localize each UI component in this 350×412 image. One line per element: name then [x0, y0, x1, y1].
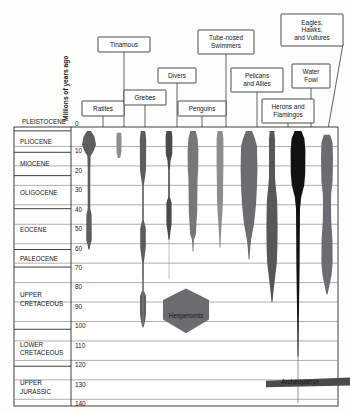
epoch-label: OLIGOCENE: [20, 189, 57, 196]
label-box-divers[interactable]: Divers: [158, 68, 196, 83]
epoch-label: PLEISTOCENE: [22, 118, 66, 125]
y-tick-label: 140: [75, 400, 86, 407]
chart-frame: [14, 127, 338, 406]
y-tick-label: 100: [75, 322, 86, 329]
y-tick-label: 10: [75, 147, 83, 154]
label-box-text: Hawks,: [302, 26, 323, 33]
label-box-eagles-hawks-and-vultures[interactable]: Eagles,Hawks,and Vultures: [281, 14, 343, 46]
epoch-label: JURASSIC: [20, 388, 52, 395]
y-axis-title: Millions of years ago: [62, 56, 70, 121]
connector-line: [327, 44, 343, 135]
label-box-text: Eagles,: [301, 19, 323, 27]
epoch-label: CRETACEOUS: [20, 349, 63, 356]
label-box-text: Fowl: [304, 76, 318, 83]
label-box-text: and Allies: [243, 80, 270, 87]
label-box-text: and Vultures: [294, 34, 330, 41]
annotation-label: Hesperornis: [169, 312, 203, 320]
label-box-text: Grebes: [135, 94, 156, 101]
label-box-text: Penguins: [189, 105, 216, 113]
label-box-text: Herons and: [271, 103, 304, 110]
y-tick-label: 120: [75, 361, 86, 368]
label-box-grebes[interactable]: Grebes: [124, 90, 166, 105]
label-box-tube-nosed-swimmers[interactable]: Tube-nosedSwimmers: [198, 30, 254, 54]
label-box-text: Swimmers: [211, 42, 241, 49]
y-tick-label: 130: [75, 381, 86, 388]
y-tick-label: 90: [75, 303, 83, 310]
label-box-text: Water: [303, 68, 321, 75]
y-tick-label: 70: [75, 264, 83, 271]
label-box-herons-and-flamingos[interactable]: Herons andFlamingos: [262, 99, 314, 123]
y-tick-label: 0: [75, 120, 79, 127]
label-box-pelicans-and-allies[interactable]: Pelicansand Allies: [231, 68, 283, 92]
epoch-label: UPPER: [20, 379, 42, 386]
label-box-tinamous[interactable]: Tinamous: [98, 37, 150, 52]
y-tick-label: 80: [75, 283, 83, 290]
annotation-label: Archeopteryx: [281, 378, 319, 386]
label-box-water-fowl[interactable]: WaterFowl: [292, 64, 330, 88]
epoch-label: EOCENE: [20, 226, 47, 233]
label-box-text: Tinamous: [110, 41, 138, 48]
epoch-label: UPPER: [20, 291, 42, 298]
epoch-label: MIOCENE: [20, 160, 49, 167]
label-box-text: Pelicans: [245, 72, 269, 79]
label-box-text: Flamingos: [273, 111, 302, 119]
label-box-text: Ratites: [93, 105, 113, 112]
y-tick-label: 40: [75, 206, 83, 213]
label-box-text: Divers: [168, 72, 186, 79]
label-boxes-group: RatitesTinamousGrebesDiversPenguinsTube-…: [82, 14, 343, 123]
spindle-tinamous[interactable]: [116, 133, 121, 158]
epoch-label: LOWER: [20, 341, 44, 348]
y-tick-label: 50: [75, 225, 83, 232]
y-tick-label: 60: [75, 245, 83, 252]
y-tick-label: 110: [75, 342, 86, 349]
epoch-label: PALEOCENE: [20, 255, 58, 262]
label-box-penguins[interactable]: Penguins: [178, 101, 226, 116]
grid-group: [14, 127, 338, 406]
spindle-diagram: PLEISTOCENEPLIOCENEMIOCENEOLIGOCENEEOCEN…: [0, 0, 350, 412]
y-tick-label: 30: [75, 186, 83, 193]
epoch-label: PLIOCENE: [20, 138, 52, 145]
label-box-text: Tube-nosed: [209, 34, 243, 41]
y-tick-label: 20: [75, 167, 83, 174]
chart-canvas: PLEISTOCENEPLIOCENEMIOCENEOLIGOCENEEOCEN…: [0, 0, 350, 412]
label-box-ratites[interactable]: Ratites: [82, 101, 124, 116]
epoch-label: CRETACEOUS: [20, 300, 63, 307]
